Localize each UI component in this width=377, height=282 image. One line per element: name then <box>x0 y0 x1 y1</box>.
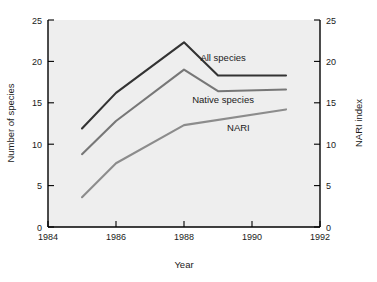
x-tick-label: 1990 <box>242 232 262 242</box>
y2-tick-labels: 0510152025 <box>326 16 336 233</box>
y2-tick-label: 25 <box>326 16 336 26</box>
y-tick-label: 15 <box>32 98 42 108</box>
x-tick-label: 1984 <box>38 232 58 242</box>
y-tick-label: 20 <box>32 57 42 67</box>
y2-tick-label: 0 <box>326 223 331 233</box>
y-tick-label: 0 <box>37 223 42 233</box>
line-chart: 19841986198819901992 0510152025 05101520… <box>0 0 377 282</box>
y2-axis-title: NARI index <box>353 99 364 147</box>
y2-tick-label: 15 <box>326 98 336 108</box>
x-axis-title: Year <box>174 259 193 270</box>
plot-background <box>48 20 320 227</box>
y2-tick-label: 20 <box>326 57 336 67</box>
x-tick-label: 1988 <box>174 232 194 242</box>
y2-tick-label: 10 <box>326 140 336 150</box>
x-tick-labels: 19841986198819901992 <box>38 232 330 242</box>
y-tick-label: 25 <box>32 16 42 26</box>
y-tick-label: 5 <box>37 181 42 191</box>
x-tick-label: 1992 <box>310 232 330 242</box>
y-axis-title: Number of species <box>5 83 16 162</box>
series-label-nari: NARI <box>227 122 250 133</box>
chart-figure: 19841986198819901992 0510152025 05101520… <box>0 0 377 282</box>
y-tick-labels: 0510152025 <box>32 16 42 233</box>
y-tick-label: 10 <box>32 140 42 150</box>
series-label-native-species: Native species <box>192 94 254 105</box>
y2-tick-label: 5 <box>326 181 331 191</box>
series-label-all-species: All species <box>200 52 246 63</box>
x-tick-label: 1986 <box>106 232 126 242</box>
